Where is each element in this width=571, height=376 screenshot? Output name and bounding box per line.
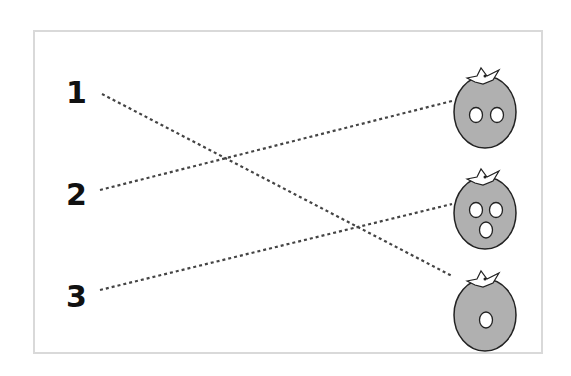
tomato-two-eyes-icon xyxy=(454,68,516,148)
tomato-one-hole-icon xyxy=(454,271,516,351)
connection-2-to-1 xyxy=(100,101,452,190)
connection-1-to-3 xyxy=(102,94,452,276)
connection-3-to-2 xyxy=(100,204,452,290)
diagram-canvas xyxy=(0,0,571,376)
tomato-two-eyes-mouth-icon xyxy=(454,169,516,249)
